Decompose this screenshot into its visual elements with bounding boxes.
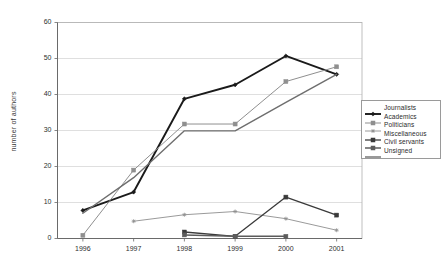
legend-swatch-icon [365,138,381,146]
series-line [184,197,336,236]
data-point [335,213,339,217]
legend-label: Miscellaneous [384,130,427,138]
legend-item[interactable]: Civil servants [365,138,437,147]
data-point [182,213,186,217]
data-point [284,195,288,199]
legend-item[interactable]: Academics [365,113,437,122]
legend-label: Journalists [384,104,416,112]
legend-label: Civil servants [384,138,424,146]
legend-item[interactable]: Politicians [365,121,437,130]
legend-item[interactable]: Journalists [365,104,437,113]
line-chart: number of authors 0102030405060 19961997… [0,0,445,265]
data-point [81,233,85,237]
data-point [233,210,237,214]
data-point [284,80,288,84]
legend-item[interactable]: Unsigned [365,147,437,156]
legend-swatch-icon [365,130,381,138]
data-point [182,122,186,126]
legend-label: Academics [384,113,417,121]
data-point [233,234,237,238]
series-politicians [132,210,339,233]
legend: JournalistsAcademicsPoliticiansMiscellan… [361,100,441,159]
data-point [335,65,339,69]
series-academics [81,65,339,237]
legend-swatch-icon [365,104,381,112]
series-unsigned [83,74,337,213]
data-point [132,219,136,223]
data-point [335,228,339,232]
legend-swatch-icon [365,147,381,155]
data-point [233,122,237,126]
gridlines [58,23,363,203]
data-point [182,233,186,237]
legend-label: Politicians [384,121,414,129]
data-point [132,168,136,172]
data-point [284,217,288,221]
legend-swatch-icon [365,113,381,121]
legend-swatch-icon [365,121,381,129]
legend-label: Unsigned [384,147,412,155]
legend-item[interactable]: Miscellaneous [365,130,437,139]
series-line [134,212,337,231]
series-line [83,74,337,213]
series-miscellaneous [182,195,338,238]
data-point [284,234,288,238]
